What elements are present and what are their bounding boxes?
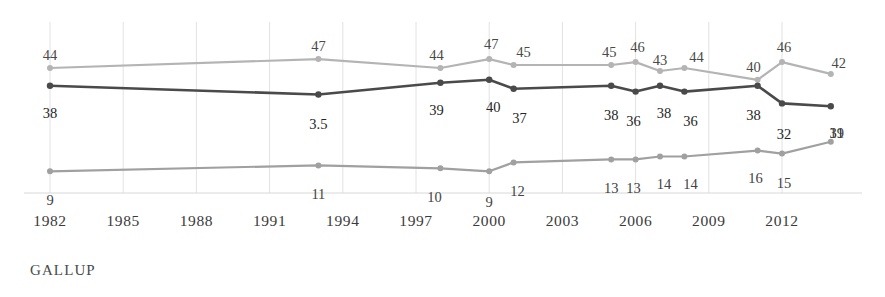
point-value-label: 3.5: [309, 117, 327, 132]
data-point-marker: [657, 154, 663, 160]
data-point-marker: [779, 100, 785, 106]
data-point-marker: [681, 88, 687, 94]
data-point-marker: [608, 156, 614, 162]
data-point-marker: [47, 83, 53, 89]
x-tick-label: 1994: [326, 212, 359, 230]
data-point-marker: [315, 56, 321, 62]
x-tick-label: 1991: [253, 212, 286, 230]
point-value-label: 46: [777, 40, 792, 55]
data-point-marker: [755, 77, 761, 83]
point-value-label: 45: [602, 45, 617, 60]
point-value-label: 12: [510, 184, 525, 199]
data-point-marker: [437, 80, 443, 86]
point-value-label: 47: [311, 39, 326, 54]
data-point-marker: [47, 168, 53, 174]
point-value-label: 32: [777, 127, 792, 142]
x-tick-label: 2006: [619, 212, 652, 230]
source-attribution: GALLUP: [30, 262, 96, 279]
point-value-label: 15: [777, 176, 792, 191]
data-point-marker: [779, 59, 785, 65]
data-point-marker: [510, 86, 516, 92]
x-tick-label: 2000: [472, 212, 505, 230]
point-value-label: 10: [427, 190, 442, 205]
data-point-marker: [486, 56, 492, 62]
x-tick-label: 1988: [180, 212, 213, 230]
data-point-marker: [511, 62, 517, 68]
point-value-label: 37: [512, 111, 527, 126]
data-point-marker: [755, 148, 761, 154]
point-value-label: 42: [832, 56, 847, 71]
data-point-marker: [828, 103, 834, 109]
data-point-marker: [828, 71, 834, 77]
data-point-marker: [486, 77, 492, 83]
data-point-marker: [511, 159, 517, 165]
data-point-marker: [315, 91, 321, 97]
x-tick-label: 1985: [106, 212, 139, 230]
data-point-marker: [608, 62, 614, 68]
point-value-label: 39: [429, 103, 444, 118]
x-tick-label: 2009: [692, 212, 725, 230]
chart-container: 1982198519881991199419972000200320062009…: [0, 0, 885, 297]
point-value-label: 40: [486, 100, 501, 115]
point-value-label: 47: [484, 37, 499, 52]
point-value-label: 38: [657, 106, 672, 121]
data-point-marker: [633, 156, 639, 162]
point-value-label: 16: [748, 171, 763, 186]
point-value-label: 14: [683, 177, 698, 192]
point-value-label: 36: [626, 114, 641, 129]
data-point-marker: [315, 162, 321, 168]
point-value-label: 44: [689, 50, 704, 65]
x-tick-label: 1982: [33, 212, 66, 230]
point-value-label: 45: [516, 45, 531, 60]
point-value-label: 38: [43, 106, 58, 121]
point-value-label: 43: [653, 53, 668, 68]
point-value-label: 38: [746, 108, 761, 123]
data-point-marker: [608, 83, 614, 89]
point-value-label: 19: [830, 126, 845, 141]
data-point-marker: [486, 168, 492, 174]
point-value-label: 13: [604, 181, 619, 196]
x-tick-label: 2003: [546, 212, 579, 230]
point-value-label: 9: [486, 195, 493, 210]
x-tick-label: 2012: [765, 212, 798, 230]
data-point-marker: [681, 154, 687, 160]
data-point-marker: [47, 65, 53, 71]
point-value-label: 46: [630, 40, 645, 55]
point-value-label: 9: [46, 193, 53, 208]
point-value-label: 13: [626, 181, 641, 196]
data-point-marker: [633, 59, 639, 65]
point-value-label: 38: [604, 108, 619, 123]
data-point-marker: [657, 83, 663, 89]
data-point-marker: [754, 83, 760, 89]
point-value-label: 44: [429, 48, 444, 63]
data-point-marker: [779, 151, 785, 157]
point-value-label: 11: [311, 187, 325, 202]
data-point-marker: [657, 68, 663, 74]
x-tick-label: 1997: [399, 212, 432, 230]
point-value-label: 44: [43, 48, 58, 63]
data-point-marker: [437, 65, 443, 71]
data-point-marker: [681, 65, 687, 71]
point-value-label: 36: [683, 114, 698, 129]
data-point-marker: [437, 165, 443, 171]
line-chart-plot: [0, 0, 885, 297]
point-value-label: 14: [657, 177, 672, 192]
data-point-marker: [632, 88, 638, 94]
point-value-label: 40: [746, 60, 761, 75]
